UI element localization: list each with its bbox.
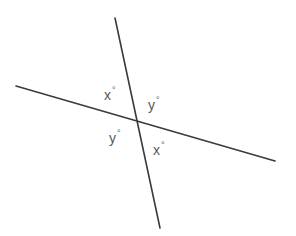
angle-label-bottom-left: y° [109,130,121,145]
angle-variable: y [109,130,116,146]
angle-label-top-right: y° [148,97,160,112]
angle-variable: x [153,142,160,158]
angle-label-top-left: x° [104,87,116,102]
shallow-line [16,86,275,161]
degree-symbol: ° [112,85,116,95]
angle-variable: x [104,87,111,103]
steep-line [115,18,160,228]
degree-symbol: ° [117,128,121,138]
intersecting-lines-diagram [0,0,296,236]
angle-variable: y [148,97,155,113]
degree-symbol: ° [156,95,160,105]
degree-symbol: ° [161,140,165,150]
angle-label-bottom-right: x° [153,142,165,157]
